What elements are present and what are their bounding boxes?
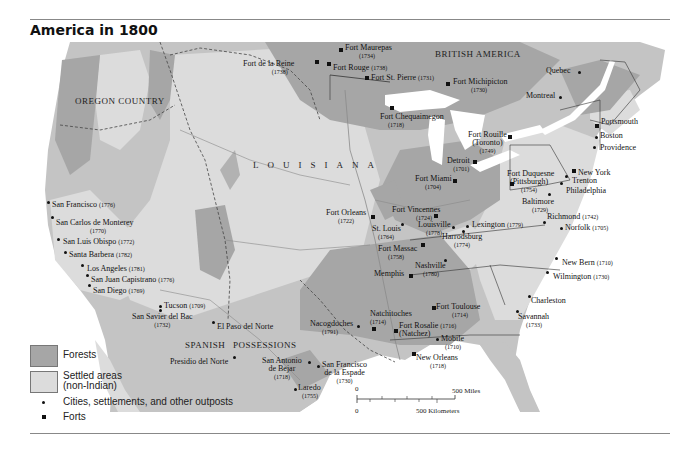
region-spanish: SPANISH: [185, 340, 225, 350]
place-new-orleans: New Orleans(1718): [416, 354, 458, 370]
city-marker: [559, 96, 562, 99]
fort-marker: [371, 215, 375, 219]
place-el-paso: El Paso del Norte: [217, 323, 273, 331]
place-st-louis: St. Louis(1764): [372, 225, 401, 241]
city-marker: [543, 221, 546, 224]
place-quebec: Quebec: [546, 67, 570, 75]
place-boston: Boston: [600, 132, 623, 140]
city-marker: [436, 338, 439, 341]
place-natchitoches: Natchitoches(1714): [370, 310, 412, 326]
fort-marker: [365, 76, 369, 80]
fort-marker: [595, 124, 599, 128]
place-nashville: Nashville(1780): [415, 262, 446, 278]
place-providence: Providence: [600, 144, 636, 152]
city-marker: [86, 274, 89, 277]
settled-swatch: [30, 371, 58, 393]
place-norfolk: Norfolk (1705): [565, 224, 608, 232]
city-marker: [560, 182, 563, 185]
fort-marker-icon: [42, 415, 46, 419]
region-oregon-country: OREGON COUNTRY: [75, 96, 165, 106]
place-fort-st-pierre: Fort St. Pierre (1731): [371, 74, 434, 82]
region-british-america: BRITISH AMERICA: [435, 49, 521, 59]
city-marker: [64, 251, 67, 254]
scale-zero-miles: 0: [355, 385, 359, 393]
place-san-xavier: San Savier del Bac(1732): [132, 313, 193, 329]
place-san-diego: San Diego (1769): [93, 287, 145, 295]
city-marker: [565, 175, 568, 178]
place-nacogdoches: Nacogdoches(1791): [310, 320, 353, 336]
region-louisiana: LOUISIANA: [253, 160, 383, 170]
place-lexington: Lexington (1779): [472, 221, 523, 229]
fort-marker: [372, 327, 376, 331]
city-marker: [81, 264, 84, 267]
fort-marker: [409, 274, 413, 278]
scale-bar: [355, 393, 475, 407]
city-marker: [546, 271, 549, 274]
place-laredo: Laredo(1755): [298, 384, 321, 400]
city-marker: [578, 71, 581, 74]
city-marker: [88, 284, 91, 287]
city-marker: [357, 325, 360, 328]
place-presidio: Presidio del Norte: [170, 358, 228, 366]
place-philadelphia: Philadelphia: [566, 187, 606, 195]
city-marker: [593, 146, 596, 149]
city-marker-icon: [42, 401, 45, 404]
place-san-antonio: San Antoniode Bejar(1718): [262, 357, 302, 381]
place-fort-miami: Fort Miami(1704): [415, 175, 452, 191]
place-san-luis-obispo: San Luis Obispo (1772): [63, 238, 134, 246]
place-richmond: Richmond (1742): [547, 213, 598, 221]
forest-swatch: [30, 345, 58, 367]
scale-zero-km: 0: [355, 407, 359, 415]
fort-marker: [315, 60, 319, 64]
city-marker: [294, 388, 297, 391]
place-tucson: Tucson (1709): [164, 302, 205, 310]
city-marker: [233, 356, 236, 359]
place-detroit: Detroit(1701): [447, 157, 470, 173]
city-marker: [57, 238, 60, 241]
place-new-bern: New Bern (1710): [562, 259, 613, 267]
place-los-angeles: Los Angeles (1781): [87, 265, 145, 273]
place-fort-maurepas: Fort Maurepas(1734): [345, 44, 392, 60]
fort-marker: [327, 62, 331, 66]
fort-marker: [508, 135, 512, 139]
place-fort-orleans: Fort Orleans(1722): [326, 209, 366, 225]
city-marker: [466, 225, 469, 228]
city-marker: [212, 321, 215, 324]
city-marker: [555, 257, 558, 260]
scale-miles: 500 Miles: [452, 387, 480, 395]
city-marker: [401, 223, 404, 226]
fort-marker: [421, 243, 425, 247]
place-san-juan-capistrano: San Juan Capistrano (1776): [91, 276, 174, 284]
city-marker: [317, 365, 320, 368]
place-fort-toulouse: Fort Toulouse(1714): [436, 303, 480, 319]
place-fort-chequaimegon: Fort Chequaimegon(1718): [380, 113, 444, 129]
city-marker: [548, 193, 551, 196]
place-memphis: Memphis: [374, 270, 404, 278]
place-charleston: Charleston: [531, 297, 566, 305]
city-marker: [308, 361, 311, 364]
place-san-francisco-espade: San Franciscode la Espade(1730): [322, 361, 367, 385]
region-possessions: POSSESSIONS: [233, 340, 297, 350]
place-fort-duquesne: Fort Duquesne(Pittsburgh)(1754): [507, 170, 554, 194]
city-marker: [47, 201, 50, 204]
place-trenton: Trenton: [572, 177, 597, 185]
place-mobile: Mobile(1710): [441, 335, 464, 351]
place-savannah: Savannah(1733): [518, 313, 549, 329]
place-santa-barbara: Santa Barbera (1782): [69, 251, 132, 259]
city-marker: [51, 216, 54, 219]
bottom-rule: [30, 433, 670, 434]
city-marker: [595, 136, 598, 139]
fort-marker: [394, 329, 398, 333]
place-fort-rouge: Fort Rouge (1738): [333, 64, 387, 72]
fort-marker: [446, 82, 450, 86]
place-fort-massac: Fort Massac(1758): [378, 245, 417, 261]
fort-marker: [453, 179, 457, 183]
place-montreal: Montreal: [526, 92, 555, 100]
place-harrodsburg: Harrodsburg(1774): [442, 233, 482, 249]
place-monterey: San Carlos de Monterey(1770): [56, 219, 134, 235]
city-marker: [452, 226, 455, 229]
place-fort-de-la-reine: Fort de la Reine(1738): [243, 60, 294, 76]
place-portsmouth: Portsmouth: [601, 118, 638, 126]
city-marker: [560, 227, 563, 230]
place-fort-rouille: Fort Rouille(Toronto)(1749): [468, 131, 507, 155]
